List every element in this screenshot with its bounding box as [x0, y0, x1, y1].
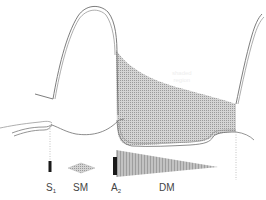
s1-marker: [49, 161, 52, 172]
pulse-wave-right-spike-inner: [238, 17, 264, 104]
ghost-text: shaded region: [172, 70, 192, 84]
label-a2: A2: [111, 183, 121, 196]
baseline-right: [236, 132, 254, 140]
pulse-wave-trough: [52, 119, 124, 135]
label-dm: DM: [159, 183, 175, 193]
pulse-wave-main-inner: [55, 10, 115, 99]
baseline-left-double: [12, 124, 52, 136]
pulse-wave-right-spike: [236, 14, 262, 104]
label-s1: S1: [46, 183, 56, 196]
dm-decrescendo-triangle: [116, 150, 218, 177]
diagram-canvas: shaded region S1 SM A2 DM: [0, 0, 266, 200]
label-sm: SM: [73, 183, 88, 193]
sm-diamond: [68, 163, 95, 173]
a2-marker: [113, 157, 117, 175]
